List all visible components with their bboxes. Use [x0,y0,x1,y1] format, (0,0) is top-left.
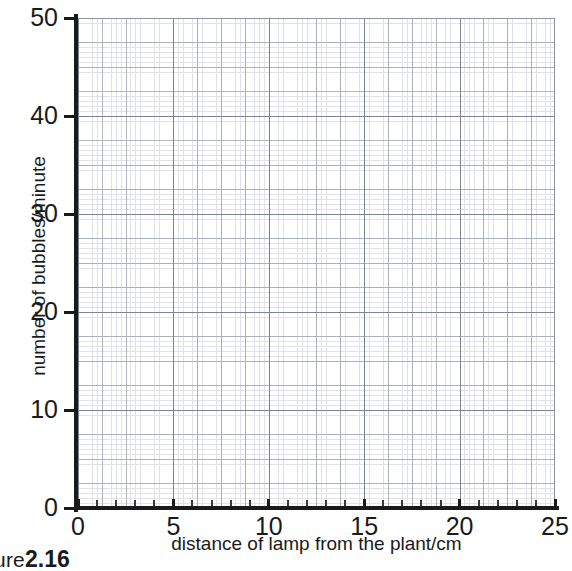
x-axis-minor-tick [134,500,136,506]
y-axis-tick [64,409,75,412]
x-axis-minor-tick [230,500,232,506]
x-axis-minor-tick [153,500,155,506]
y-axis-tick [64,311,75,314]
x-axis-minor-tick [420,500,422,506]
y-axis-tick [64,17,75,20]
x-axis-tick [363,499,366,510]
x-axis-minor-tick [249,500,251,506]
x-axis-tick [267,499,270,510]
y-axis-title: number of bubbles/minute [28,101,50,431]
x-axis-tick [172,499,175,510]
figure-caption: ure2.16 [0,546,70,571]
x-axis-minor-tick [440,500,442,506]
x-axis-minor-tick [401,500,403,506]
x-axis-tick [554,499,557,510]
x-axis-minor-tick [96,500,98,506]
y-axis-tick [64,213,75,216]
y-axis-tick [64,507,75,510]
x-axis-minor-tick [325,500,327,506]
x-axis-minor-tick [478,500,480,506]
y-axis-line [74,14,78,512]
x-axis-minor-tick [382,500,384,506]
y-axis-tick-label: 0 [6,495,58,520]
grid-border [78,18,555,508]
x-axis-minor-tick [497,500,499,506]
plot-area [78,18,555,508]
x-axis-minor-tick [115,500,117,506]
x-axis-minor-tick [191,500,193,506]
x-axis-minor-tick [306,500,308,506]
x-axis-minor-tick [211,500,213,506]
figure-caption-number: 2.16 [25,546,70,571]
x-axis-minor-tick [287,500,289,506]
y-axis-tick [64,115,75,118]
x-axis-minor-tick [344,500,346,506]
x-axis-tick [458,499,461,510]
x-axis-tick [77,499,80,510]
x-axis-line [74,506,559,510]
x-axis-title: distance of lamp from the plant/cm [78,533,555,555]
x-axis-minor-tick [535,500,537,506]
x-axis-minor-tick [516,500,518,506]
figure-caption-word: ure [0,548,25,571]
y-axis-tick-label: 50 [6,5,58,30]
